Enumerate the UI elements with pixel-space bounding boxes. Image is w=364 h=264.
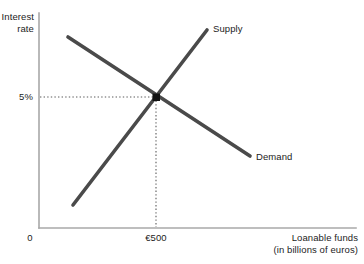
x-axis-title-line2: (in billions of euros) xyxy=(246,244,358,256)
x-tick-label-500-euro: €500 xyxy=(132,232,180,244)
supply-curve xyxy=(73,30,207,205)
equilibrium-point-marker xyxy=(153,94,161,102)
y-axis-title-line1: Interest xyxy=(2,11,34,22)
y-axis-title: Interest rate xyxy=(0,11,34,34)
loanable-funds-chart: Interest rate 5% 0 €500 Loanable funds (… xyxy=(0,0,364,264)
y-axis-title-line2: rate xyxy=(0,23,34,35)
demand-curve-label: Demand xyxy=(256,151,293,163)
origin-label: 0 xyxy=(24,232,36,244)
x-axis-title-line1: Loanable funds xyxy=(292,232,358,243)
y-tick-label-5-percent: 5% xyxy=(0,91,33,103)
chart-canvas xyxy=(0,0,364,264)
x-axis-title: Loanable funds (in billions of euros) xyxy=(246,232,358,255)
supply-curve-label: Supply xyxy=(213,23,243,35)
